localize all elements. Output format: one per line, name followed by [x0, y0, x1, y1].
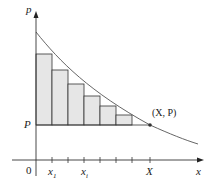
x-axis-label: x: [196, 166, 201, 177]
price-level-label: P: [24, 119, 31, 130]
x-end-label: X: [146, 166, 153, 177]
diagram-graphic: [0, 0, 211, 191]
y-axis-arrow-icon: [34, 11, 39, 18]
x1-label: x1: [48, 166, 56, 180]
x-axis-arrow-icon: [197, 158, 204, 163]
point-x-p: [148, 123, 152, 127]
y-axis-label: p: [26, 4, 32, 15]
point-label: (X, P): [152, 108, 176, 118]
riemann-rectangles: [36, 54, 132, 125]
xi-label: xi: [81, 166, 88, 180]
demand-curve-diagram: p x 0 P (X, P) X x1 xi: [0, 0, 211, 191]
origin-label: 0: [26, 165, 32, 176]
